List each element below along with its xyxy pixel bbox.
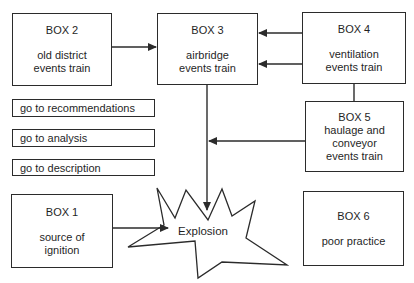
goto-recommendations-button[interactable]: go to recommendations xyxy=(12,99,155,117)
box2-body: old district events train xyxy=(34,49,91,75)
box-node-box1: BOX 1 source of ignition xyxy=(11,194,113,268)
box5-body: haulage and conveyor events train xyxy=(324,124,385,163)
box-node-box4: BOX 4 ventilation events train xyxy=(302,12,406,84)
box3-title: BOX 3 xyxy=(191,24,223,37)
box-node-box3: BOX 3 airbridge events train xyxy=(157,13,258,85)
flowchart-canvas: BOX 2 old district events train BOX 3 ai… xyxy=(0,0,414,283)
box6-body: poor practice xyxy=(322,235,386,248)
box4-body: ventilation events train xyxy=(326,48,383,74)
box1-body: source of ignition xyxy=(39,231,84,257)
box6-title: BOX 6 xyxy=(337,210,369,223)
box5-title: BOX 5 xyxy=(338,111,370,124)
box4-title: BOX 4 xyxy=(338,23,370,36)
goto-analysis-button[interactable]: go to analysis xyxy=(12,129,155,147)
explosion-label: Explosion xyxy=(170,225,236,237)
box-node-box5: BOX 5 haulage and conveyor events train xyxy=(305,101,404,172)
box1-title: BOX 1 xyxy=(46,206,78,219)
box-node-box6: BOX 6 poor practice xyxy=(303,191,404,266)
box-node-box2: BOX 2 old district events train xyxy=(12,13,112,86)
goto-description-button[interactable]: go to description xyxy=(12,159,155,176)
box3-body: airbridge events train xyxy=(179,49,236,75)
box2-title: BOX 2 xyxy=(46,24,78,37)
